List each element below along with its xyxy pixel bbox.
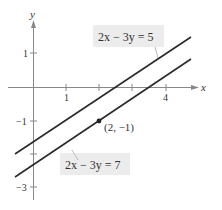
- equation-label-1: 2x − 3y = 5: [98, 30, 154, 44]
- x-axis-label: x: [200, 81, 206, 93]
- x-axis: [8, 84, 196, 91]
- leader-line-1: [155, 47, 158, 58]
- y-axis: [30, 24, 37, 200]
- y-axis-arrow-icon: [31, 20, 36, 28]
- x-tick-label-4: 4: [163, 92, 168, 103]
- y-tick-label-1: 1: [23, 48, 28, 59]
- graph: x y 1 4 1 −1 −3 (2, −1) 2x − 3y = 5 2x −…: [0, 0, 222, 210]
- y-axis-label: y: [29, 8, 35, 20]
- x-tick-label-1: 1: [64, 92, 69, 103]
- equation-label-2: 2x − 3y = 7: [65, 158, 121, 172]
- point-label: (2, −1): [104, 121, 134, 134]
- point-2-neg1: [97, 119, 102, 124]
- y-tick-label-neg3: −3: [16, 182, 27, 193]
- x-axis-arrow-icon: [191, 85, 199, 90]
- y-tick-label-neg1: −1: [16, 116, 27, 127]
